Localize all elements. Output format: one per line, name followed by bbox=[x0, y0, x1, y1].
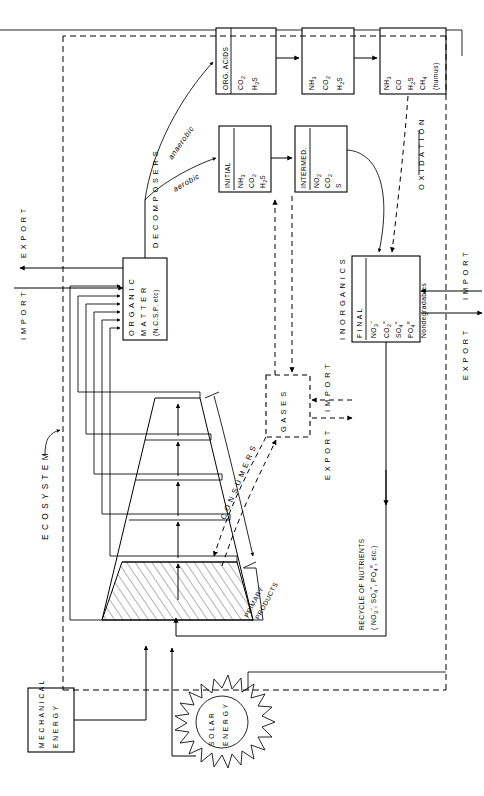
export-gases-label: E X P O R T bbox=[323, 430, 332, 480]
inorganics-title: I N O R G A N I C S bbox=[338, 258, 347, 340]
diagram-canvas: E C O S Y S T E M E X P O R T I M P O R … bbox=[0, 0, 484, 796]
import-right-label: I M P O R T bbox=[461, 251, 470, 300]
org-acids-header: ORG. ACIDS bbox=[222, 46, 229, 90]
humus-item-1: CO bbox=[395, 79, 402, 90]
organic-matter-line-1: O R G A N I C bbox=[127, 278, 136, 336]
humus-item-4: (humus) bbox=[432, 62, 440, 90]
import-left-label: I M P O R T bbox=[19, 291, 28, 340]
organic-matter-line-3: (N.C.S.P. etc) bbox=[152, 289, 160, 336]
gases-label: G A S E S bbox=[279, 391, 288, 432]
ecosystem-label-text: E C O S Y S T E M bbox=[41, 452, 50, 540]
intermed-header: INTERMED. bbox=[300, 147, 307, 188]
organic-matter-line-2: M A T T E R bbox=[139, 287, 148, 336]
oxidation-label: O X I D A T I O N bbox=[417, 119, 426, 190]
ecosystem-diagram: E C O S Y S T E M E X P O R T I M P O R … bbox=[0, 0, 484, 796]
recycle-label-line-1: RECYCLE OF NUTRIENTS bbox=[358, 538, 365, 630]
decomposers-label: D E C O M P O S E R S bbox=[151, 150, 160, 248]
export-right-label: E X P O R T bbox=[461, 330, 470, 380]
export-left-label: E X P O R T bbox=[19, 208, 28, 258]
intermed-item-2: S bbox=[335, 183, 342, 188]
initial-header: INITIAL bbox=[224, 162, 231, 188]
inorganics-header: F I N A L bbox=[356, 308, 363, 338]
solar-energy-line-2: E N E R G Y bbox=[222, 704, 229, 746]
mechanical-energy-line-1: M E C H A N I C A L bbox=[38, 680, 45, 748]
mechanical-energy-line-2: E N E R G Y bbox=[52, 706, 59, 748]
solar-energy-line-1: S O L A R bbox=[208, 713, 215, 746]
import-gases-label: I M P O R T bbox=[323, 363, 332, 412]
